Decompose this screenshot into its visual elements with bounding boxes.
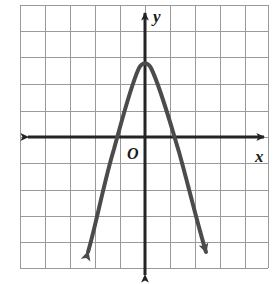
parabola-curve bbox=[88, 64, 206, 253]
x-axis-label: x bbox=[254, 147, 264, 166]
graph-figure: y x O bbox=[0, 0, 276, 284]
y-axis-label: y bbox=[151, 7, 161, 26]
origin-label: O bbox=[127, 145, 139, 162]
coordinate-plane-svg: y x O bbox=[0, 0, 276, 284]
